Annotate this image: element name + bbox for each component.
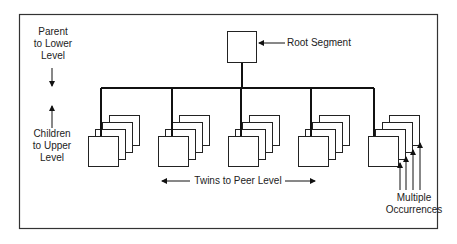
children-to-upper-label: Children to Upper Level [28, 128, 76, 164]
child-segment-box [89, 137, 119, 167]
child-segment-stack [369, 88, 420, 167]
child-segment-stack [299, 88, 350, 167]
child-segment-stack [159, 88, 210, 167]
twins-to-peer-label: Twins to Peer Level [194, 175, 282, 187]
child-segment-box [369, 137, 399, 167]
child-segment-box [229, 137, 259, 167]
child-segment-box [299, 137, 329, 167]
child-segment-stack [229, 88, 280, 167]
child-segment-stack [89, 88, 140, 167]
child-stacks [89, 88, 420, 167]
parent-to-lower-label: Parent to Lower Level [30, 26, 76, 62]
child-segment-box [159, 137, 189, 167]
multiple-occurrences-label: Multiple Occurrences [384, 192, 444, 216]
root-segment-box [228, 32, 257, 63]
root-segment-label: Root Segment [287, 37, 351, 49]
